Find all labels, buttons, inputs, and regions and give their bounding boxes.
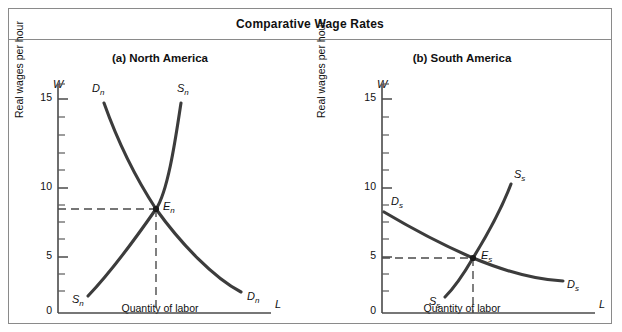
panel-b-demand-end-label: Ds	[567, 278, 579, 293]
panel-a-demand-end-label: Dn	[247, 290, 259, 305]
panel-a-equilibrium-point	[153, 206, 159, 212]
panel-a-equilibrium-label: En	[163, 200, 175, 215]
panel-a-demand-top-letter: D	[92, 82, 100, 94]
panel-b-supply-top-sub: s	[521, 174, 525, 183]
panel-a-demand-curve	[104, 103, 241, 292]
panel-a-major-ticks	[58, 99, 68, 257]
panel-north-america: (a) North America Real wages per hour Qu…	[9, 40, 311, 324]
panel-a-equilibrium-sub: n	[170, 206, 174, 215]
figure-title-bar: Comparative Wage Rates	[9, 9, 611, 40]
panel-b-major-ticks	[382, 99, 392, 257]
panel-b-equilibrium-point	[470, 255, 476, 261]
panel-b-equilibrium-sub: s	[488, 255, 492, 264]
plot-b: Real wages per hour Quantity of labor W …	[311, 40, 613, 324]
panel-a-svg	[9, 40, 311, 324]
panel-a-demand-end-sub: n	[255, 296, 259, 305]
figure-frame: Comparative Wage Rates (a) North America…	[8, 8, 612, 324]
panel-a-demand-top-sub: n	[100, 88, 104, 97]
panel-b-demand-end-sub: s	[575, 284, 579, 293]
panel-b-equilibrium-label: Es	[481, 249, 492, 264]
plot-a: Real wages per hour Quantity of labor W …	[9, 40, 311, 324]
panels-container: (a) North America Real wages per hour Qu…	[9, 40, 611, 324]
panel-a-demand-top-label: Dn	[92, 82, 104, 97]
panel-a-supply-top-sub: n	[184, 88, 188, 97]
panel-b-demand-curve	[384, 212, 563, 281]
panel-a-supply-top-label: Sn	[177, 82, 189, 97]
panel-b-demand-top-label: Ds	[391, 195, 403, 210]
panel-b-supply-end-label: Ss	[429, 295, 440, 310]
panel-a-supply-end-label: Sn	[72, 293, 84, 308]
panel-b-supply-top-label: Ss	[514, 168, 525, 183]
panel-b-demand-top-letter: D	[391, 195, 399, 207]
panel-a-demand-end-letter: D	[247, 290, 255, 302]
panel-b-demand-end-letter: D	[567, 278, 575, 290]
panel-b-supply-end-sub: s	[436, 301, 440, 310]
panel-b-supply-curve	[445, 184, 511, 297]
figure-title: Comparative Wage Rates	[236, 17, 384, 31]
panel-south-america: (b) South America Real wages per hour Qu…	[311, 40, 613, 324]
panel-b-demand-top-sub: s	[399, 201, 403, 210]
panel-a-supply-end-sub: n	[79, 299, 83, 308]
